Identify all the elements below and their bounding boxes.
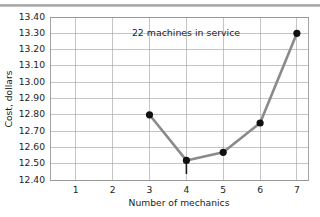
x-axis-title-group: Number of mechanics [129, 197, 230, 208]
annotation-group: 22 machines in service [132, 27, 240, 38]
y-axis-title-group: Cost, dollars [3, 70, 14, 127]
data-point [183, 157, 190, 164]
data-point [293, 30, 300, 37]
y-tick-label: 12.80 [19, 108, 45, 119]
x-axis-tick-labels: 1 2 3 4 5 6 7 [73, 184, 300, 195]
y-tick-label: 13.40 [19, 11, 45, 22]
data-point [146, 111, 153, 118]
line-chart-svg: 13.40 13.30 13.20 13.10 13.00 12.90 12.8… [0, 0, 320, 217]
chart-container: 13.40 13.30 13.20 13.10 13.00 12.90 12.8… [0, 0, 320, 217]
y-tick-label: 12.40 [19, 174, 45, 185]
y-tick-label: 12.90 [19, 92, 45, 103]
y-tick-label: 13.30 [19, 27, 45, 38]
x-tick-label: 6 [257, 184, 263, 195]
x-tick-label: 2 [110, 184, 116, 195]
y-tick-label: 12.50 [19, 157, 45, 168]
x-tick-label: 7 [294, 184, 300, 195]
x-axis-title: Number of mechanics [129, 197, 230, 208]
y-tick-label: 12.70 [19, 125, 45, 136]
y-tick-label: 13.10 [19, 59, 45, 70]
data-point [257, 119, 264, 126]
y-tick-label: 12.60 [19, 141, 45, 152]
y-axis-tick-labels: 13.40 13.30 13.20 13.10 13.00 12.90 12.8… [19, 11, 45, 185]
y-tick-label: 13.00 [19, 76, 45, 87]
y-tick-label: 13.20 [19, 43, 45, 54]
y-axis-title: Cost, dollars [3, 70, 14, 127]
x-tick-label: 3 [147, 184, 153, 195]
annotation-label: 22 machines in service [132, 27, 240, 38]
x-tick-label: 5 [220, 184, 226, 195]
x-tick-label: 4 [183, 184, 189, 195]
data-point [220, 149, 227, 156]
x-tick-label: 1 [73, 184, 79, 195]
